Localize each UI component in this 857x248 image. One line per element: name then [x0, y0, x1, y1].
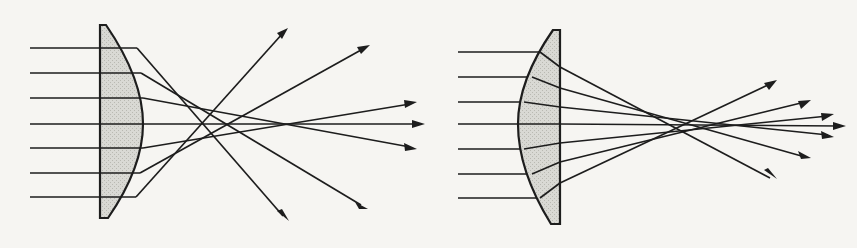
optics-figure: [0, 0, 857, 248]
spherical-aberration-diagram: [0, 0, 857, 248]
